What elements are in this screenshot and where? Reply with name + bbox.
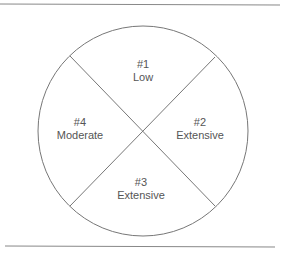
quadrant-1-text: Low — [133, 71, 153, 84]
quadrant-1-number: #1 — [133, 58, 153, 71]
quadrant-2-number: #2 — [176, 116, 224, 129]
quadrant-4-text: Moderate — [57, 129, 103, 142]
quadrant-3-text: Extensive — [117, 189, 165, 202]
quadrant-3-number: #3 — [117, 176, 165, 189]
quadrant-4-label: #4 Moderate — [57, 116, 103, 142]
quadrant-2-text: Extensive — [176, 129, 224, 142]
top-rule — [0, 4, 280, 5]
quadrant-3-label: #3 Extensive — [117, 176, 165, 202]
quadrant-2-label: #2 Extensive — [176, 116, 224, 142]
bottom-rule — [5, 246, 275, 247]
quadrant-diagram — [0, 0, 289, 256]
quadrant-4-number: #4 — [57, 116, 103, 129]
quadrant-1-label: #1 Low — [133, 58, 153, 84]
